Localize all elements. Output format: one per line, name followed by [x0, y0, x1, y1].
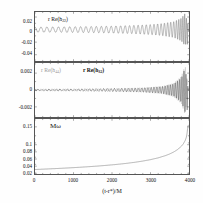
panel-label-h22-sub: 22 — [62, 19, 66, 23]
panel-label-h44: r Re(h44) — [41, 67, 61, 74]
panel-label-h32-pre: r Re(h — [83, 67, 98, 73]
x-tick-3: 3000 — [146, 178, 156, 183]
y-tick-bot-3: 0.06 — [23, 157, 32, 162]
x-axis-title: (t-r*)/M — [102, 188, 122, 194]
panel-h22: r Re(h22) — [34, 11, 190, 62]
panel-label-h22-post: ) — [66, 16, 68, 22]
panel-momega: Mω — [34, 118, 190, 175]
panel-label-h32: r Re(h32) — [83, 67, 104, 74]
panel-label-h22: r Re(h22) — [48, 16, 68, 23]
panel-label-h44-post: ) — [59, 67, 61, 73]
panel-h44-h32: r Re(h44) r Re(h32) — [34, 62, 190, 118]
y-tick-bot-0: 0.15 — [23, 124, 32, 129]
panel-label-h32-post: ) — [102, 67, 104, 73]
panel-label-h22-pre: r Re(h — [48, 16, 62, 22]
y-tick-bot-5: 0.02 — [23, 172, 32, 177]
x-tick-2: 2000 — [107, 178, 117, 183]
figure-gravitational-waveform-panels: 0.02 0 -0.02 -0.04 0.002 0 -0.002 0.15 0… — [0, 0, 203, 203]
panel-label-h44-pre: r Re(h — [41, 67, 55, 73]
y-axis-labels-bottom: 0.15 0.1 0.08 0.06 0.04 0.02 — [0, 0, 32, 203]
panel-label-h32-sub: 32 — [98, 70, 102, 74]
y-tick-bot-2: 0.08 — [23, 150, 32, 155]
y-tick-bot-4: 0.04 — [23, 165, 32, 170]
x-tick-4: 4000 — [185, 178, 195, 183]
x-tick-1: 1000 — [68, 178, 78, 183]
y-tick-bot-1: 0.1 — [26, 142, 32, 147]
panel-label-h44-sub: 44 — [55, 70, 59, 74]
x-tick-0: 0 — [33, 178, 36, 183]
panel-label-momega: Mω — [50, 123, 61, 129]
